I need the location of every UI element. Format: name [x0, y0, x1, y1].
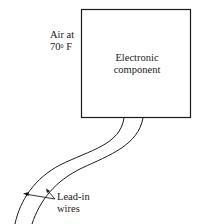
- lead-wires-label: Lead-in wires: [57, 191, 90, 215]
- ambient-label-line2: 700 F: [50, 41, 74, 53]
- component-label-line2: component: [112, 64, 162, 76]
- diagram-canvas: [0, 0, 198, 224]
- degree-mark: 0: [61, 43, 64, 49]
- pointer-arrows: [23, 189, 55, 200]
- wires-label-line1: Lead-in: [57, 191, 90, 203]
- temp-unit: F: [64, 41, 72, 52]
- ambient-air-label: Air at 700 F: [50, 29, 74, 53]
- component-label-line1: Electronic: [112, 52, 162, 64]
- ambient-label-line1: Air at: [50, 29, 74, 41]
- ambient-temp-value: 70: [50, 41, 61, 52]
- component-label: Electronic component: [112, 52, 162, 76]
- wires-label-line2: wires: [57, 203, 90, 215]
